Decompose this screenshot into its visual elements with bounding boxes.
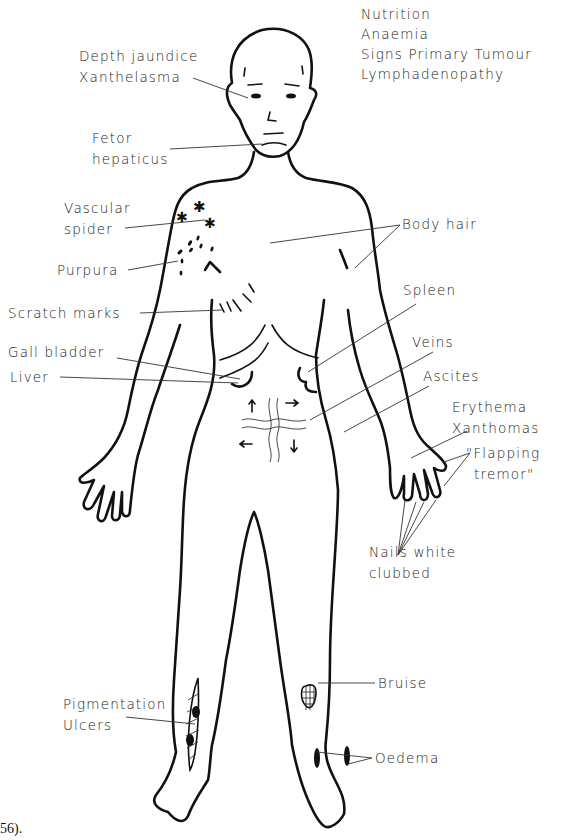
label-ulcers: Ulcers bbox=[63, 715, 167, 736]
label-tremor: tremor" bbox=[466, 464, 540, 485]
spleen-mark bbox=[298, 368, 316, 392]
scratch-marks bbox=[220, 284, 254, 312]
liver-gallbladder-marks bbox=[232, 372, 252, 387]
label-liver: Liver bbox=[10, 367, 49, 388]
label-clubbed: clubbed bbox=[369, 563, 456, 584]
label-xanthomas: Xanthomas bbox=[452, 418, 539, 439]
oedema-marks bbox=[314, 746, 350, 768]
label-hepaticus: hepaticus bbox=[92, 149, 169, 170]
label-nails-white: Nails white bbox=[369, 542, 456, 563]
label-vascular-spider: Vascular spider bbox=[64, 198, 131, 240]
label-bruise: Bruise bbox=[378, 673, 427, 694]
bruise-mark bbox=[302, 684, 317, 710]
label-xanthelasma: Xanthelasma bbox=[79, 67, 198, 88]
abdominal-veins bbox=[240, 398, 306, 462]
label-signs-primary-tumour: Signs Primary Tumour bbox=[361, 44, 532, 64]
label-fetor-hepaticus: Fetor hepaticus bbox=[92, 128, 169, 170]
caption-fragment: 56). bbox=[0, 821, 22, 837]
label-anaemia: Anaemia bbox=[361, 24, 532, 44]
label-lymphadenopathy: Lymphadenopathy bbox=[361, 64, 532, 84]
purpura-dots bbox=[177, 235, 215, 276]
label-erythema: Erythema bbox=[452, 397, 539, 418]
label-veins: Veins bbox=[412, 332, 454, 353]
label-pigmentation: Pigmentation bbox=[63, 694, 167, 715]
label-nutrition: Nutrition bbox=[361, 4, 532, 24]
label-nails: Nails white clubbed bbox=[369, 542, 456, 584]
label-gall-bladder: Gall bladder bbox=[8, 342, 105, 363]
label-pigmentation-ulcers: Pigmentation Ulcers bbox=[63, 694, 167, 736]
svg-text:✱: ✱ bbox=[193, 198, 206, 216]
label-flapping: "Flapping bbox=[466, 443, 540, 464]
label-body-hair: Body hair bbox=[402, 214, 477, 235]
label-purpura: Purpura bbox=[57, 260, 118, 281]
label-depth-jaundice: Depth jaundice bbox=[79, 46, 198, 67]
label-oedema: Oedema bbox=[375, 748, 439, 769]
label-erythema-xanthomas: Erythema Xanthomas bbox=[452, 397, 539, 439]
label-ascites: Ascites bbox=[423, 366, 479, 387]
general-signs-list: Nutrition Anaemia Signs Primary Tumour L… bbox=[361, 4, 532, 84]
label-spider: spider bbox=[64, 219, 131, 240]
label-fetor: Fetor bbox=[92, 128, 169, 149]
label-scratch-marks: Scratch marks bbox=[8, 303, 121, 324]
head-outline bbox=[227, 29, 316, 157]
label-depth-jaundice-group: Depth jaundice Xanthelasma bbox=[79, 46, 198, 88]
label-flapping-tremor: "Flapping tremor" bbox=[466, 443, 540, 485]
label-vascular: Vascular bbox=[64, 198, 131, 219]
rib-margins bbox=[220, 325, 318, 378]
svg-text:✱: ✱ bbox=[204, 215, 216, 231]
label-spleen: Spleen bbox=[403, 280, 456, 301]
vascular-spider-marks: ✱ ✱ ✱ bbox=[176, 198, 216, 231]
